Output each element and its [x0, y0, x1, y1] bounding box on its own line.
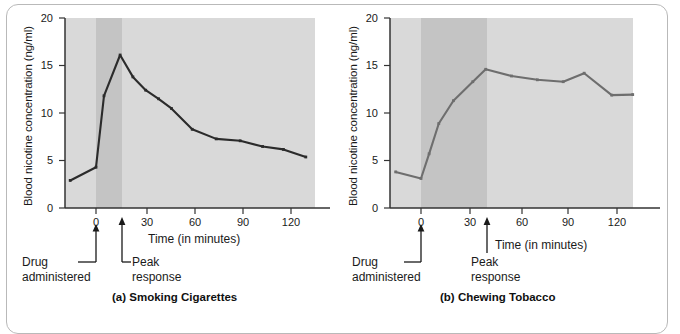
chart-b-svg — [340, 0, 680, 316]
chart-panel-smoking-cigarettes: Blood nicotine concentration (ng/ml) 20 … — [0, 0, 340, 316]
peak-response-arrow-a — [119, 217, 131, 262]
x-tick-60: 60 — [180, 216, 210, 228]
y-tick-10: 10 — [356, 107, 378, 119]
annotation-peak-line2: response — [471, 270, 520, 284]
y-tick-10: 10 — [31, 107, 53, 119]
annotation-peak-line2: response — [132, 270, 181, 284]
annotation-peak-line1: Peak — [132, 255, 159, 269]
drug-administered-arrow-b — [404, 224, 424, 262]
y-tick-0: 0 — [31, 202, 53, 214]
annotation-drug-line1: Drug — [352, 255, 378, 269]
x-tick-30: 30 — [132, 216, 162, 228]
annotation-peak-line1: Peak — [471, 255, 498, 269]
drug-administered-arrow-a — [78, 224, 99, 262]
y-tick-20: 20 — [356, 12, 378, 24]
x-tick-60: 60 — [507, 216, 537, 228]
x-axis-label: Time (in minutes) — [495, 238, 587, 252]
y-tick-5: 5 — [356, 154, 378, 166]
x-tick-120: 120 — [276, 216, 306, 228]
x-tick-0: 0 — [406, 216, 436, 228]
panel-caption: (a) Smoking Cigarettes — [112, 291, 237, 303]
y-tick-15: 15 — [31, 59, 53, 71]
annotation-drug-line2: administered — [352, 270, 421, 284]
shaded-band-b — [421, 18, 487, 208]
x-tick-120: 120 — [602, 216, 632, 228]
chart-panel-chewing-tobacco: Blood nicotine concentration (ng/ml) 20 … — [340, 0, 680, 316]
annotation-drug-line1: Drug — [22, 255, 48, 269]
y-tick-0: 0 — [356, 202, 378, 214]
shaded-band-a — [96, 18, 122, 208]
x-tick-0: 0 — [81, 216, 111, 228]
y-tick-15: 15 — [356, 59, 378, 71]
x-tick-30: 30 — [455, 216, 485, 228]
x-axis-label: Time (in minutes) — [148, 232, 240, 246]
x-tick-90: 90 — [228, 216, 258, 228]
y-tick-20: 20 — [31, 12, 53, 24]
y-tick-5: 5 — [31, 154, 53, 166]
panel-caption: (b) Chewing Tobacco — [440, 291, 555, 303]
annotation-drug-line2: administered — [22, 270, 91, 284]
x-tick-90: 90 — [553, 216, 583, 228]
